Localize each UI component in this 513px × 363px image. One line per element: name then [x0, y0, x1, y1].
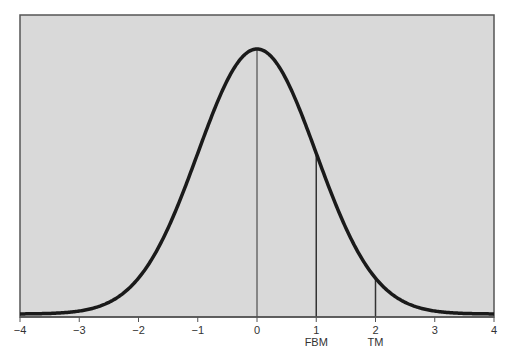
annotation-labels: FBMTM — [305, 336, 384, 348]
annotation-label: TM — [368, 336, 384, 348]
x-tick-label: 3 — [432, 324, 438, 336]
x-tick-label: −1 — [191, 324, 204, 336]
x-tick-label: 0 — [254, 324, 260, 336]
annotation-label: FBM — [305, 336, 328, 348]
x-axis-ticks: −4−3−2−101234 — [14, 317, 497, 336]
x-tick-label: −3 — [73, 324, 86, 336]
x-tick-label: 2 — [372, 324, 378, 336]
x-tick-label: 4 — [491, 324, 497, 336]
x-tick-label: −4 — [14, 324, 27, 336]
normal-distribution-chart: −4−3−2−101234 FBMTM — [0, 0, 513, 363]
x-tick-label: −2 — [132, 324, 145, 336]
x-tick-label: 1 — [313, 324, 319, 336]
